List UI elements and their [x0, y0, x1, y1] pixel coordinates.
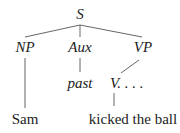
leaf-sam: Sam: [12, 111, 39, 127]
node-v: V. . . .: [110, 75, 143, 91]
edge-s-vp: [80, 25, 142, 37]
leaf-kicked-the-ball: kicked the ball: [89, 111, 177, 127]
node-vp: VP: [134, 39, 152, 55]
node-aux: Aux: [67, 39, 92, 55]
node-np: NP: [14, 39, 34, 55]
node-past: past: [66, 75, 93, 91]
edge-vp-v: [121, 60, 139, 73]
node-s: S: [76, 6, 84, 22]
syntax-tree-diagram: S NP Aux VP past V. . . . Sam kicked the…: [0, 0, 180, 133]
edge-s-np: [25, 25, 80, 37]
